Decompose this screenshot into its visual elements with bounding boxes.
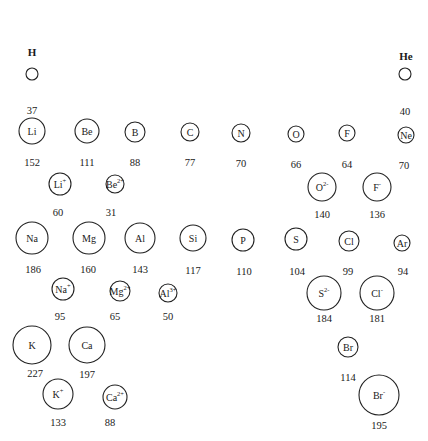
species-liplus: Li+60 (49, 173, 71, 218)
radius-value: 136 (369, 209, 385, 220)
radius-value: 88 (130, 157, 141, 168)
radius-value: 117 (185, 265, 200, 276)
charge-superscript: + (60, 387, 64, 394)
charge-superscript: - (379, 180, 381, 187)
species-li: Li152 (19, 118, 45, 168)
radius-value: 143 (132, 264, 148, 275)
charge-superscript: 2+ (117, 177, 124, 184)
radius-value: 111 (80, 157, 95, 168)
species-p: P110 (232, 229, 254, 277)
species-si: Si117 (180, 225, 206, 276)
radius-value: 160 (80, 264, 96, 275)
species-symbol: Mg (82, 233, 96, 244)
radius-value: 65 (110, 311, 121, 322)
radii-diagram: H37He40Li152Be111B88C77N70O66F64Ne70Li+6… (0, 0, 428, 441)
species-be: Be111 (75, 119, 99, 168)
radius-value: 70 (399, 160, 410, 171)
species-s2minus: S2-184 (307, 276, 341, 324)
species-symbol: Be (81, 126, 93, 137)
species-br: Br114 (338, 337, 358, 383)
species-symbol: Al (135, 233, 145, 244)
species-ne: Ne70 (398, 127, 414, 171)
radius-value: 197 (79, 369, 95, 380)
radius-value: 184 (316, 313, 333, 324)
species-o: O66 (288, 126, 304, 170)
species-symbol: S2- (319, 286, 330, 299)
species-be2plus: Be2+31 (106, 175, 125, 218)
radius-value: 60 (53, 207, 64, 218)
species-symbol: Na (26, 233, 38, 244)
radius-value: 31 (106, 207, 117, 218)
species-fminus: F-136 (363, 173, 391, 220)
species-symbol: Ar (397, 238, 408, 249)
species-s: S104 (285, 228, 307, 277)
species-symbol: Ca (81, 340, 93, 351)
radius-value: 99 (343, 266, 354, 277)
radius-value: 37 (27, 105, 38, 116)
element-symbol-label: H (28, 46, 37, 58)
radius-value: 94 (398, 266, 409, 277)
species-c: C77 (181, 123, 199, 168)
species-brminus: Br-195 (359, 375, 399, 431)
charge-superscript: 2- (324, 286, 329, 293)
radius-value: 195 (371, 420, 387, 431)
charge-superscript: - (381, 286, 383, 293)
species-symbol: Li+ (54, 177, 67, 190)
species-symbol: K+ (53, 387, 64, 400)
radius-value: 70 (236, 158, 247, 169)
radius-value: 66 (291, 159, 302, 170)
species-symbol: Cl (344, 236, 354, 247)
atom-circle (399, 68, 411, 80)
species-symbol: Al3+ (160, 286, 177, 299)
species-al3plus: Al3+50 (159, 284, 177, 322)
radius-value: 227 (27, 368, 43, 379)
species-f: F64 (339, 125, 355, 170)
species-cl: Cl99 (339, 231, 359, 277)
charge-superscript: + (67, 282, 71, 289)
radius-value: 114 (340, 372, 356, 383)
species-symbol: O2- (316, 180, 329, 193)
species-symbol: N (237, 128, 244, 139)
radius-value: 40 (400, 106, 411, 117)
species-symbol: Li (28, 126, 37, 137)
species-symbol: Br (343, 342, 354, 353)
species-symbol: Mg2+ (110, 284, 131, 297)
species-symbol: C (187, 127, 194, 138)
radius-value: 140 (314, 209, 330, 220)
radius-value: 181 (369, 313, 385, 324)
species-symbol: B (132, 127, 139, 138)
charge-superscript: 3+ (170, 286, 177, 293)
radius-value: 186 (25, 264, 41, 275)
species-naplus: Na+95 (52, 278, 74, 322)
charge-superscript: + (63, 177, 67, 184)
radius-value: 95 (55, 311, 66, 322)
radius-value: 77 (185, 157, 196, 168)
species-al: Al143 (125, 223, 155, 275)
species-symbol: F (344, 128, 350, 139)
radius-value: 88 (105, 417, 116, 428)
species-symbol: Be2+ (106, 177, 124, 190)
species-symbol: Ne (400, 130, 412, 141)
species-symbol: S (293, 234, 299, 245)
radius-value: 152 (24, 157, 40, 168)
species-symbol: P (240, 235, 246, 246)
species-n: N70 (232, 124, 250, 169)
species-symbol: Cl- (371, 286, 383, 299)
species-b: B88 (125, 122, 145, 168)
radius-value: 110 (236, 266, 251, 277)
species-o2minus: O2-140 (308, 173, 336, 220)
radius-value: 64 (342, 159, 353, 170)
charge-superscript: 2+ (123, 284, 130, 291)
charge-superscript: 2+ (117, 390, 124, 397)
species-he: He40 (399, 50, 413, 117)
species-symbol: Na+ (55, 282, 71, 295)
radius-value: 104 (289, 266, 306, 277)
species-ca: Ca197 (69, 327, 105, 380)
species-symbol: Si (189, 233, 198, 244)
species-ca2plus: Ca2+88 (103, 385, 127, 428)
species-symbol: K (28, 340, 36, 351)
species-ar: Ar94 (394, 235, 410, 277)
species-kplus: K+133 (43, 379, 73, 428)
species-symbol: F- (373, 180, 381, 193)
charge-superscript: - (383, 388, 385, 395)
